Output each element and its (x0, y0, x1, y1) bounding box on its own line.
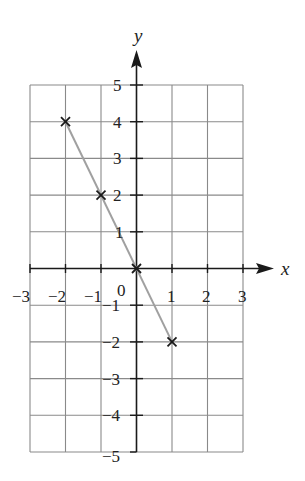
x-tick-label: 2 (202, 287, 211, 306)
y-tick-label: 5 (113, 76, 122, 95)
origin-label: 0 (117, 281, 126, 300)
y-tick-label: 4 (113, 113, 122, 132)
x-axis-label: x (280, 258, 290, 279)
coordinate-plane: y x 5 4 3 2 1 −1 −2 −3 −4 −5 −3 −2 −1 0 … (0, 0, 305, 481)
y-tick-label: −2 (102, 333, 120, 352)
x-tick-label: −3 (12, 287, 30, 306)
y-tick-label: −3 (102, 370, 120, 389)
y-tick-label: −5 (102, 447, 120, 466)
y-tick-label: 2 (113, 186, 122, 205)
x-tick-labels: −3 −2 −1 0 1 2 3 (12, 281, 247, 306)
x-tick-label: −2 (48, 287, 66, 306)
y-tick-label: −4 (102, 406, 121, 425)
x-tick-label: 3 (238, 287, 247, 306)
y-axis-label: y (132, 25, 143, 46)
x-tick-label: −1 (84, 287, 102, 306)
y-tick-label: 3 (113, 149, 122, 168)
y-tick-labels: 5 4 3 2 1 −1 −2 −3 −4 −5 (102, 76, 124, 466)
axes (30, 50, 274, 452)
y-tick-label: 1 (115, 223, 124, 242)
x-tick-label: 1 (167, 287, 176, 306)
